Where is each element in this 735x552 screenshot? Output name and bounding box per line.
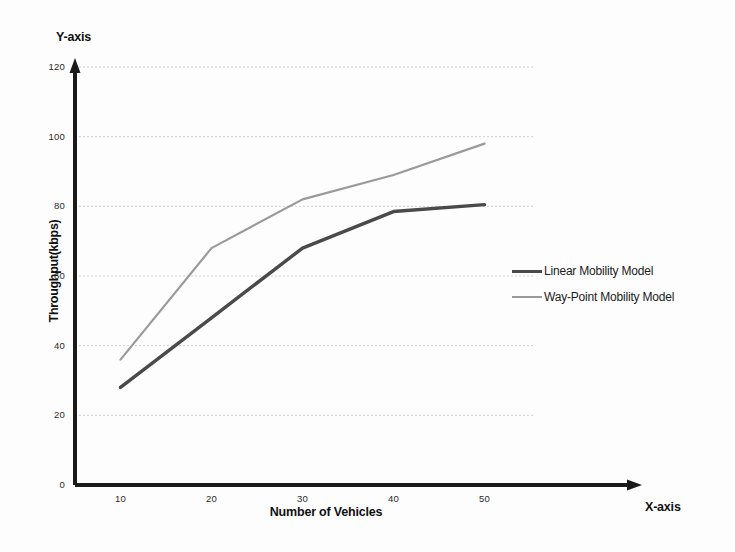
- chart-figure: Y-axis X-axis Throughput(kbps) Number of…: [0, 0, 735, 552]
- y-tick-label: 0: [31, 479, 65, 490]
- chart-legend: Linear Mobility Model Way-Point Mobility…: [512, 258, 727, 310]
- series-line-linear: [121, 205, 485, 388]
- y-tick-label: 20: [31, 409, 65, 420]
- x-tick-label: 20: [197, 493, 227, 504]
- legend-item-waypoint: Way-Point Mobility Model: [512, 284, 727, 310]
- legend-label-waypoint: Way-Point Mobility Model: [544, 290, 674, 304]
- legend-swatch-linear-icon: [512, 270, 542, 273]
- x-tick-label: 10: [106, 493, 136, 504]
- x-axis-arrow-icon: [627, 480, 642, 491]
- legend-swatch-waypoint-icon: [512, 296, 542, 298]
- y-tick-label: 100: [31, 131, 65, 142]
- legend-label-linear: Linear Mobility Model: [544, 264, 653, 278]
- y-tick-label: 60: [31, 270, 65, 281]
- y-tick-label: 120: [31, 61, 65, 72]
- y-axis-arrow-icon: [70, 58, 81, 73]
- x-tick-label: 40: [379, 493, 409, 504]
- x-tick-label: 30: [288, 493, 318, 504]
- x-tick-label: 50: [470, 493, 500, 504]
- gridlines: [75, 67, 535, 485]
- series-lines: [121, 144, 485, 388]
- y-tick-label: 40: [31, 340, 65, 351]
- y-tick-label: 80: [31, 200, 65, 211]
- series-line-waypoint: [121, 144, 485, 360]
- legend-item-linear: Linear Mobility Model: [512, 258, 727, 284]
